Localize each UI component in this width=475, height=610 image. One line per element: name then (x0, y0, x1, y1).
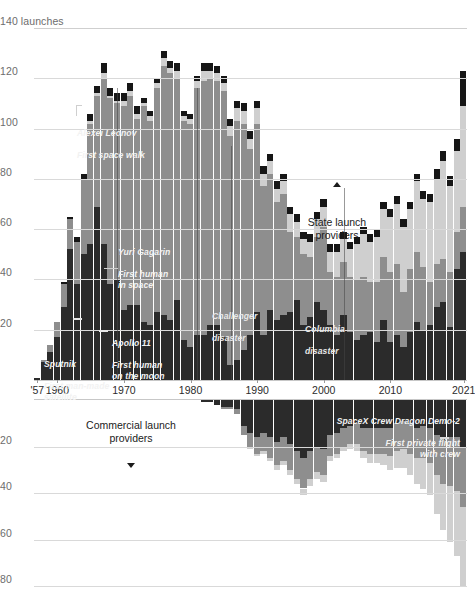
bar-segment (267, 161, 273, 174)
bar-segment (427, 282, 433, 325)
bar-segment (314, 472, 320, 479)
bar-segment (434, 475, 440, 515)
bar-segment-cap (394, 196, 400, 204)
bar-segment (201, 335, 207, 380)
bar-column (280, 400, 286, 465)
bar-segment (414, 252, 420, 322)
y-axis-tick-label: 40 (0, 266, 30, 278)
bar-segment-cap (460, 71, 466, 106)
annotation-challenger-title: Challenger (212, 311, 282, 322)
bar-segment (354, 244, 360, 279)
bar-segment (167, 68, 173, 73)
bar-segment (287, 232, 293, 312)
bar-segment (214, 81, 220, 325)
bar-column (327, 237, 333, 380)
bar-segment-cap (247, 131, 253, 139)
gridline (34, 28, 467, 29)
bar-segment (107, 96, 113, 99)
bar-segment-cap (400, 219, 406, 227)
bar-column (414, 166, 420, 380)
bar-column (440, 141, 446, 380)
bar-segment (254, 400, 260, 437)
bar-segment-cap (221, 76, 227, 84)
bar-segment-cap (174, 63, 180, 71)
bar-segment (387, 342, 393, 380)
triangle-up-icon (333, 182, 341, 187)
annotation-challenger-body: disaster (212, 333, 246, 343)
bar-segment (94, 93, 100, 96)
bar-segment (460, 252, 466, 380)
bar-segment-cap (420, 191, 426, 199)
bar-segment (254, 124, 260, 313)
bar-segment (287, 400, 293, 444)
marker-1969-cap (73, 318, 82, 320)
bar-column (394, 189, 400, 380)
bar-segment (440, 161, 446, 259)
bar-segment (287, 470, 293, 475)
bar-segment (454, 151, 460, 231)
bar-segment (201, 400, 207, 402)
bar-segment (241, 350, 247, 380)
y-axis-tick-label: 140 launches (0, 15, 90, 27)
bar-segment (394, 335, 400, 380)
bar-segment (241, 111, 247, 124)
bar-segment (454, 491, 460, 556)
gridline (34, 586, 467, 587)
x-axis-tick (464, 380, 465, 383)
x-axis-tick (390, 380, 391, 383)
bar-segment (174, 71, 180, 79)
bar-column (427, 186, 433, 380)
bar-segment (414, 181, 420, 251)
bar-column (267, 400, 273, 461)
triangle-down-icon (127, 463, 135, 468)
bar-segment (387, 272, 393, 342)
bar-segment (101, 78, 107, 244)
bar-segment-cap (234, 101, 240, 109)
bar-segment (460, 400, 466, 447)
bar-segment (314, 237, 320, 302)
x-axis-tick (37, 380, 38, 383)
bar-column (434, 159, 440, 380)
bar-segment (460, 447, 466, 508)
bar-segment (420, 458, 426, 488)
bar-segment (267, 174, 273, 310)
annotation-apollo11: Apollo 11 First human on the moon (112, 327, 192, 382)
bar-column (334, 237, 340, 380)
bar-segment-cap (434, 169, 440, 179)
bar-segment-cap (440, 151, 446, 161)
y-axis-tick-label: 20 (0, 317, 30, 329)
bar-segment (201, 81, 207, 335)
bar-segment (427, 202, 433, 282)
bar-segment (407, 332, 413, 380)
bar-segment-cap (141, 98, 147, 103)
bar-segment-cap (101, 63, 107, 73)
bar-segment (234, 108, 240, 121)
bar-segment-cap (201, 63, 207, 71)
annotation-leonov-leader-cap (76, 105, 82, 106)
gridline (34, 179, 467, 180)
bar-column (267, 146, 273, 380)
y-axis-tick-label: 120 (0, 65, 30, 77)
bar-segment (260, 451, 266, 453)
bar-segment (294, 451, 300, 479)
bar-segment (400, 292, 406, 347)
bar-segment (254, 108, 260, 123)
annotation-columbia-title: Columbia (305, 324, 371, 335)
annotation-demo2-title: SpaceX Crew Dragon Demo-2 (310, 416, 460, 427)
bar-segment (447, 327, 453, 380)
bar-segment (394, 204, 400, 264)
bar-segment (280, 437, 286, 460)
bar-segment (280, 461, 286, 466)
legend-state-launch-providers: State launch providers (282, 190, 392, 243)
annotation-demo2-marker (440, 437, 449, 439)
bar-segment (300, 489, 306, 496)
annotation-leonov: Alexei Leonov First space walk (77, 117, 177, 161)
bar-segment (267, 400, 273, 437)
annotation-challenger: Challenger disaster (212, 300, 282, 344)
bar-segment (221, 407, 227, 409)
bar-segment-cap (94, 86, 100, 94)
bar-segment (427, 463, 433, 496)
bar-segment (234, 409, 240, 414)
bar-segment (374, 282, 380, 342)
